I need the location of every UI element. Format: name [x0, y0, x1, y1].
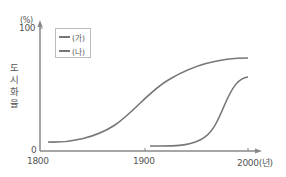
legend-line-icon [59, 36, 70, 37]
x-tick-2000: 2000(년) [237, 156, 273, 169]
origin-label: 0 [31, 145, 36, 155]
legend-item-ga: (가) [59, 31, 90, 43]
legend-line-icon [59, 50, 70, 51]
x-tick-1800: 1800 [27, 156, 49, 166]
legend-label-ga: (가) [72, 32, 85, 43]
legend-label-na: (나) [72, 46, 85, 57]
legend: (가) (나) [55, 28, 91, 58]
y-axis-arrow-icon [38, 20, 43, 27]
x-axis-arrow-icon [255, 149, 262, 154]
chart-canvas [0, 0, 286, 177]
series-line-na [150, 77, 248, 146]
series-line-ga [48, 58, 248, 142]
legend-item-na: (나) [59, 45, 90, 57]
y-tick-100: 100 [19, 23, 35, 33]
x-tick-1900: 1900 [133, 156, 155, 166]
y-axis-label: 도시화율 [8, 62, 20, 110]
